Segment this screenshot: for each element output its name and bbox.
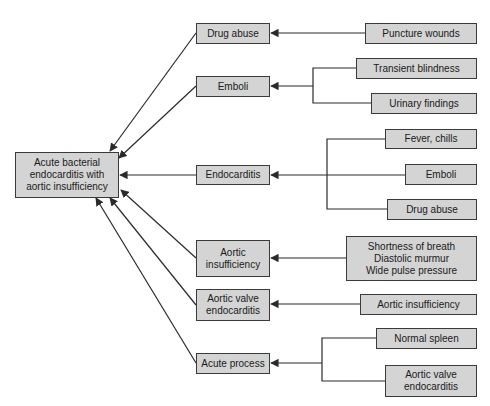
evidence-puncture-wounds: Puncture wounds — [365, 23, 477, 44]
aortic-insufficiency-box: Aortic insufficiency — [196, 240, 270, 277]
evidence-emboli: Emboli — [405, 164, 477, 185]
drug-abuse-box: Drug abuse — [196, 23, 270, 44]
evidence-fever-chills: Fever, chills — [385, 129, 477, 149]
evidence-urinary-findings: Urinary findings — [371, 93, 477, 114]
emboli-box: Emboli — [196, 76, 270, 97]
evidence-transient-blindness: Transient blindness — [356, 58, 477, 79]
aortic-valve-endocarditis-box: Aortic valve endocarditis — [196, 289, 270, 321]
evidence-normal-spleen: Normal spleen — [376, 328, 477, 349]
evidence-sob-murmur-pulse: Shortness of breath Diastolic murmur Wid… — [346, 236, 477, 281]
acute-process-box: Acute process — [196, 353, 270, 374]
evidence-drug-abuse: Drug abuse — [387, 199, 477, 220]
evidence-aortic-insufficiency: Aortic insufficiency — [360, 294, 477, 315]
conclusion-box: Acute bacterial endocarditis with aortic… — [15, 152, 119, 198]
endocarditis-box: Endocarditis — [196, 165, 270, 185]
evidence-aortic-valve-endocarditis: Aortic valve endocarditis — [385, 365, 477, 397]
